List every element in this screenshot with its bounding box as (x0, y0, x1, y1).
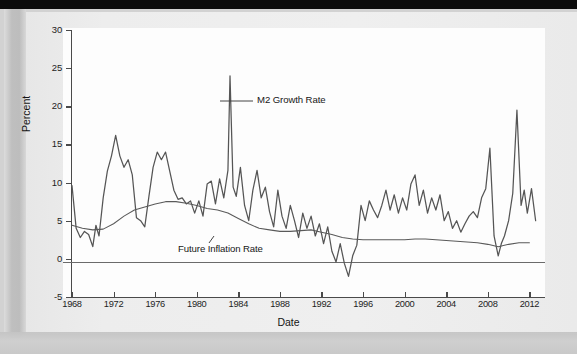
m2-annotation-label: M2 Growth Rate (257, 94, 325, 105)
inflation-annotation-label: Future Inflation Rate (178, 243, 263, 254)
m2-growth-rate-line (72, 76, 536, 277)
inflation-annotation-leader (209, 236, 214, 243)
scanned-page: -5051015202530 1968197219761980198419881… (0, 0, 577, 354)
series-layer (0, 0, 577, 354)
